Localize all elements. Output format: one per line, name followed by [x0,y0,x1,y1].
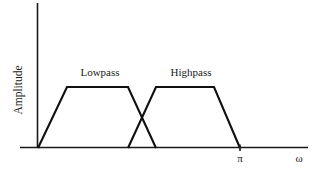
x-tick-label-pi: π [237,152,243,164]
highpass-label: Highpass [171,66,212,78]
lowpass-label: Lowpass [80,66,119,78]
y-axis-title: Amplitude [12,65,25,114]
x-axis-title: ω [295,152,302,164]
lowpass-curve [38,87,156,148]
plot-canvas: Lowpass Highpass Amplitude π ω [0,0,318,172]
highpass-curve [128,87,240,148]
filter-response-figure: Lowpass Highpass Amplitude π ω [0,0,318,172]
